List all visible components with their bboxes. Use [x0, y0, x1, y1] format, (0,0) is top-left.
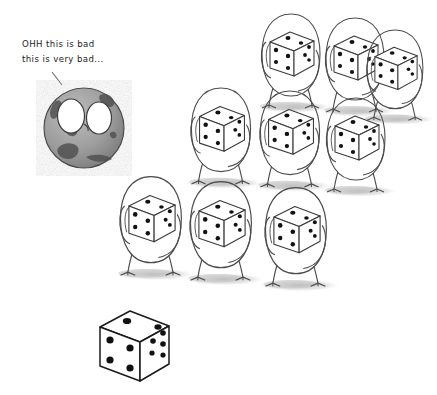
big-die-pip — [150, 338, 156, 344]
creature-4 — [183, 88, 265, 189]
big-die-pip — [123, 318, 131, 324]
big-die-pip — [160, 330, 166, 336]
creature-1 — [254, 14, 334, 113]
big-die-pip — [106, 356, 113, 363]
big-die-pip — [160, 341, 166, 347]
scene-svg: OHH this is bad this is very bad... — [0, 0, 437, 395]
pointer-line-icon — [52, 72, 62, 85]
sketch-canvas: OHH this is bad this is very bad... — [0, 0, 437, 395]
creature-group-bottom-row — [112, 177, 341, 292]
big-die-pip — [126, 364, 133, 371]
creature-7 — [112, 177, 196, 281]
worried-earth-character — [44, 88, 124, 168]
big-die-pip — [106, 336, 113, 343]
creature-group-top-row — [254, 14, 436, 125]
large-foreground-die — [100, 311, 169, 381]
big-die-pip — [126, 344, 133, 351]
earth-eye-right — [87, 102, 112, 134]
big-die-pip — [154, 324, 161, 329]
creature-8 — [182, 182, 266, 286]
big-die-pip — [160, 352, 165, 357]
caption-line-1: OHH this is bad — [22, 39, 95, 49]
caption-line-2: this is very bad... — [22, 54, 104, 64]
big-die-pip — [149, 350, 154, 355]
caption-block: OHH this is bad this is very bad... — [22, 39, 104, 85]
creature-9 — [257, 188, 341, 292]
earth-eye-left — [58, 99, 85, 133]
